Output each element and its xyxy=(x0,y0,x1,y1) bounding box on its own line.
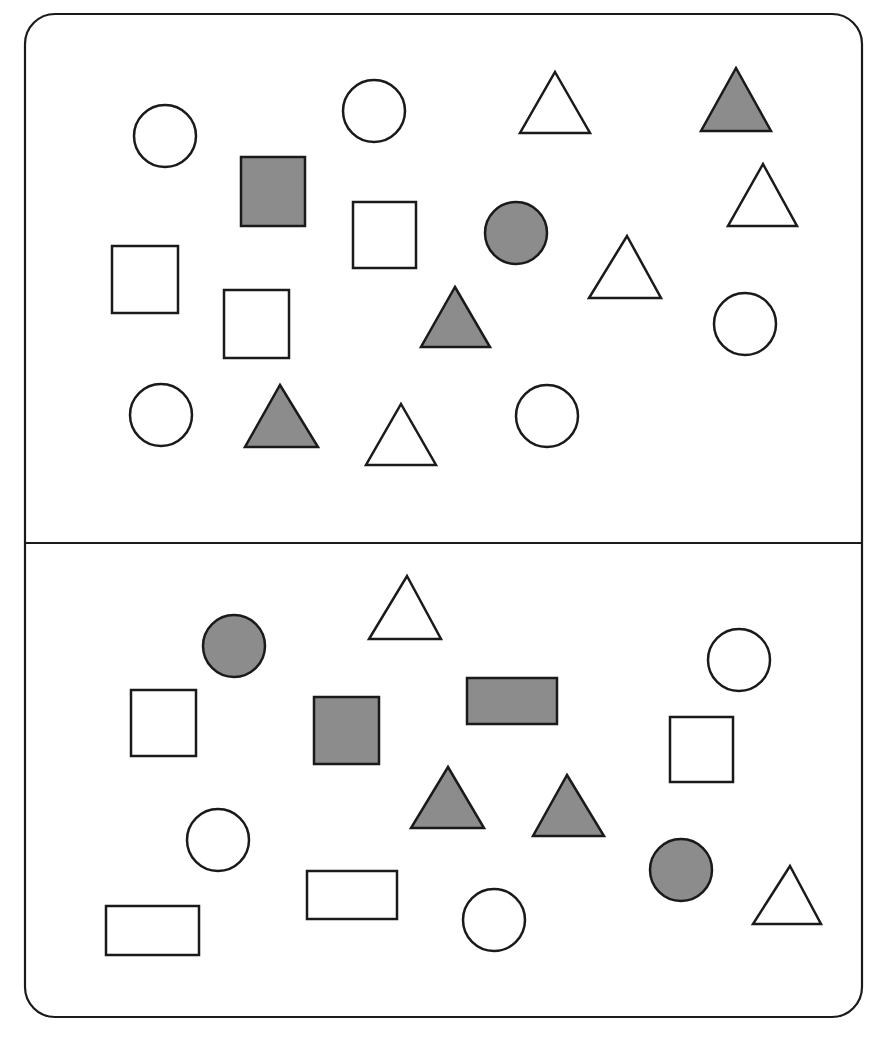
filled-square xyxy=(241,157,305,226)
filled-circle xyxy=(650,839,712,901)
shape-comparison-figure xyxy=(0,0,882,1038)
filled-rectangle xyxy=(467,678,557,724)
filled-square xyxy=(314,697,379,764)
filled-circle xyxy=(203,615,265,677)
filled-circle xyxy=(485,202,547,264)
figure-canvas xyxy=(0,0,882,1038)
